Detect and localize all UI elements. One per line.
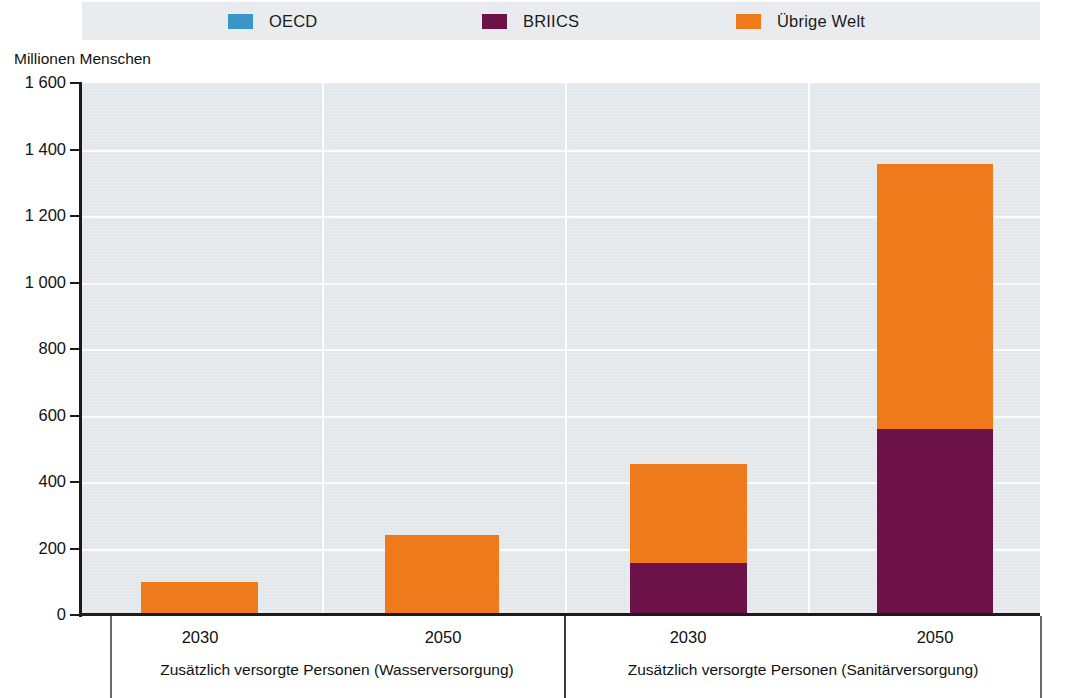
legend-label-uebrige-welt: Übrige Welt (777, 12, 865, 31)
legend-label-oecd: OECD (269, 12, 317, 31)
bar-wasser-2030-segment--brige-welt[interactable] (141, 582, 258, 615)
x-axis-line (79, 613, 1040, 616)
x-axis-group-label-2: 2030 (628, 628, 748, 647)
gridline-x-2 (808, 83, 810, 615)
y-tick-label-0: 0 (0, 605, 66, 624)
legend-swatch-uebrige-welt-icon (736, 14, 761, 29)
bar-sanitaer-2030[interactable] (630, 464, 747, 615)
y-tick-1400 (70, 149, 80, 151)
y-tick-label-1000: 1 000 (0, 273, 66, 292)
legend-label-briics: BRIICS (523, 12, 579, 31)
legend-item-briics[interactable]: BRIICS (482, 12, 579, 31)
y-tick-600 (70, 415, 80, 417)
gridline-x-0 (322, 83, 324, 615)
legend-item-uebrige-welt[interactable]: Übrige Welt (736, 12, 865, 31)
bar-wasser-2030[interactable] (141, 582, 258, 615)
bar-sanitaer-2050[interactable] (877, 164, 993, 615)
chart-figure: OECD BRIICS Übrige Welt Millionen Mensch… (0, 0, 1072, 698)
legend-item-oecd[interactable]: OECD (228, 12, 317, 31)
y-tick-1200 (70, 215, 80, 217)
x-axis-group-label-1: 2050 (383, 628, 503, 647)
plot-area (82, 83, 1040, 615)
y-axis-title: Millionen Menschen (14, 50, 151, 68)
y-tick-label-1400: 1 400 (0, 140, 66, 159)
y-tick-800 (70, 348, 80, 350)
y-tick-0 (70, 614, 80, 616)
y-tick-label-400: 400 (0, 472, 66, 491)
panel-separator (564, 616, 566, 698)
gridline-y-1400 (82, 150, 1040, 152)
bar-sanitaer-2030-segment--brige-welt[interactable] (630, 464, 747, 564)
y-tick-label-600: 600 (0, 406, 66, 425)
bar-wasser-2050-segment--brige-welt[interactable] (385, 535, 499, 615)
legend-swatch-briics-icon (482, 14, 507, 29)
panel-caption-wasserversorgung: Zusätzlich versorgte Personen (Wasserver… (110, 661, 564, 679)
x-axis-group-label-3: 2050 (875, 628, 995, 647)
y-tick-1000 (70, 282, 80, 284)
y-tick-label-1600: 1 600 (0, 73, 66, 92)
y-tick-400 (70, 481, 80, 483)
legend: OECD BRIICS Übrige Welt (82, 2, 1040, 40)
panel-left-edge (110, 616, 112, 698)
legend-swatch-oecd-icon (228, 14, 253, 29)
bar-wasser-2050[interactable] (385, 535, 499, 615)
x-axis-group-label-0: 2030 (140, 628, 260, 647)
gridline-x-1 (565, 83, 567, 615)
panel-right-edge (1040, 616, 1042, 698)
y-tick-label-200: 200 (0, 539, 66, 558)
y-tick-200 (70, 548, 80, 550)
y-tick-label-800: 800 (0, 339, 66, 358)
bar-sanitaer-2050-segment-briics[interactable] (877, 429, 993, 615)
y-tick-label-1200: 1 200 (0, 206, 66, 225)
bar-sanitaer-2030-segment-briics[interactable] (630, 563, 747, 615)
panel-caption-sanitaerversorgung: Zusätzlich versorgte Personen (Sanitärve… (566, 661, 1040, 679)
bar-sanitaer-2050-segment--brige-welt[interactable] (877, 164, 993, 428)
y-tick-1600 (70, 82, 80, 84)
